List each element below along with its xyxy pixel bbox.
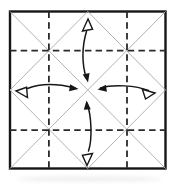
diagram-canvas (0, 0, 176, 187)
origami-crease-diagram (0, 0, 176, 187)
